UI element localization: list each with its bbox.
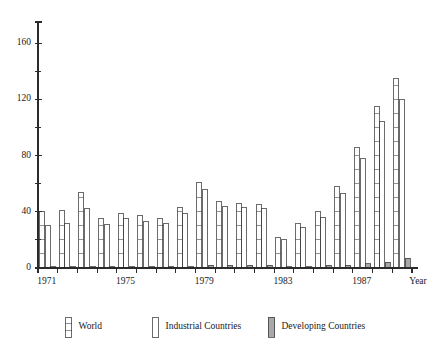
bar-group: [236, 203, 252, 268]
chart-legend: WorldIndustrial CountriesDeveloping Coun…: [65, 317, 365, 337]
legend-label: World: [79, 321, 103, 331]
bar-world: [256, 205, 261, 268]
bar-world: [138, 216, 143, 268]
legend-item: Industrial Countries: [152, 317, 242, 337]
bar-industrial: [340, 194, 345, 269]
bar-world: [197, 182, 202, 268]
x-axis-tick-label: 1983: [274, 276, 293, 286]
legend-label: Industrial Countries: [166, 321, 242, 331]
y-axis-tick-label: 40: [22, 206, 32, 216]
bar-group: [177, 208, 193, 268]
bar-group: [276, 237, 292, 268]
bar-industrial: [163, 223, 168, 268]
bar-industrial: [399, 99, 404, 268]
bar-group: [315, 212, 331, 268]
legend-label: Developing Countries: [282, 321, 366, 331]
bar-industrial: [360, 158, 365, 268]
bars-layer: [40, 78, 411, 268]
bar-industrial: [380, 122, 385, 268]
bar-industrial: [321, 217, 326, 268]
bar-world: [118, 213, 123, 268]
bar-group: [354, 147, 370, 268]
bar-group: [59, 210, 75, 268]
bar-world: [79, 192, 84, 268]
legend-swatch-developing-swatch: [268, 317, 275, 337]
bar-industrial: [124, 219, 129, 268]
bar-group: [217, 202, 233, 268]
bar-industrial: [65, 223, 70, 268]
bar-group: [40, 212, 56, 268]
bar-world: [59, 210, 64, 268]
bar-industrial: [301, 227, 306, 268]
x-axis-title: Year: [409, 276, 427, 286]
bar-industrial: [45, 226, 50, 268]
x-axis-tick-label: 1979: [195, 276, 214, 286]
legend-item: World: [65, 317, 102, 337]
bar-group: [197, 182, 213, 268]
y-axis: 04080120160: [17, 22, 42, 272]
legend-swatch-world-swatch: [65, 317, 72, 337]
grouped-bar-chart: 04080120160 19711975197919831987Year Wor…: [0, 0, 433, 354]
bar-world: [394, 78, 399, 268]
bar-developing: [385, 262, 390, 268]
bar-group: [394, 78, 410, 268]
bar-developing: [405, 258, 410, 268]
bar-industrial: [84, 209, 89, 268]
bar-industrial: [222, 206, 227, 268]
bar-world: [374, 106, 379, 268]
bar-group: [158, 219, 174, 268]
x-axis-tick-label: 1971: [37, 276, 56, 286]
bar-developing: [366, 264, 371, 268]
bar-group: [138, 216, 154, 268]
y-axis-tick-label: 160: [17, 37, 32, 47]
bar-industrial: [281, 240, 286, 268]
bar-industrial: [144, 222, 149, 268]
bar-group: [99, 219, 115, 268]
plot-area: 04080120160 19711975197919831987Year: [17, 22, 428, 286]
bar-group: [79, 192, 95, 268]
bar-world: [158, 219, 163, 268]
bar-industrial: [203, 189, 208, 268]
y-axis-tick-label: 80: [22, 150, 32, 160]
legend-swatch-industrial-swatch: [152, 317, 159, 337]
bar-world: [276, 237, 281, 268]
x-axis-tick-label: 1987: [352, 276, 371, 286]
bar-industrial: [183, 213, 188, 268]
chart-figure: 04080120160 19711975197919831987Year Wor…: [0, 0, 433, 354]
bar-industrial: [104, 224, 109, 268]
x-axis-tick-label: 1975: [116, 276, 135, 286]
bar-world: [335, 186, 340, 268]
bar-group: [256, 205, 272, 268]
legend-item: Developing Countries: [268, 317, 365, 337]
x-axis: 19711975197919831987Year: [37, 268, 427, 286]
bar-group: [295, 223, 311, 268]
bar-group: [118, 213, 134, 268]
y-axis-tick-label: 120: [17, 93, 32, 103]
bar-industrial: [262, 209, 267, 268]
y-axis-tick-label: 0: [26, 262, 31, 272]
bar-world: [99, 219, 104, 268]
bar-group: [374, 106, 390, 268]
bar-world: [177, 208, 182, 268]
bar-group: [335, 186, 351, 268]
bar-industrial: [242, 208, 247, 268]
bar-world: [354, 147, 359, 268]
bar-world: [295, 223, 300, 268]
bar-world: [236, 203, 241, 268]
